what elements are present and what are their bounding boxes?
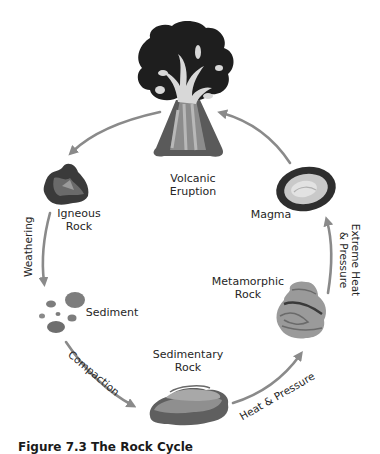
label-line: Magma — [246, 208, 296, 221]
label-line: Rock — [208, 288, 288, 301]
label-line: Sedimentary — [148, 348, 228, 361]
label-line: Extreme Heat — [350, 215, 362, 305]
sedimentary-rock-icon — [150, 386, 229, 425]
label-line: Rock — [54, 220, 104, 233]
stage-label-sediment: Sediment — [82, 306, 142, 319]
label-line: Volcanic — [158, 172, 228, 185]
figure-caption: Figure 7.3 The Rock Cycle — [18, 440, 193, 454]
label-line: Rock — [148, 361, 228, 374]
sediment-icon — [39, 292, 85, 333]
label-line: Metamorphic — [208, 275, 288, 288]
label-line: Igneous — [54, 207, 104, 220]
label-line: Eruption — [158, 185, 228, 198]
arrow-volcano-to-igneous — [72, 112, 160, 152]
label-line: Sediment — [82, 306, 142, 319]
label-line: & Pressure — [338, 215, 350, 305]
stage-label-volcanic-eruption: Volcanic Eruption — [158, 172, 228, 198]
stage-label-igneous-rock: Igneous Rock — [54, 207, 104, 233]
arrow-igneous-to-sediment — [43, 213, 50, 282]
arrow-metamorphic-to-magma — [327, 221, 331, 293]
process-label-weathering: Weathering — [22, 217, 34, 277]
arrow-magma-to-volcano — [222, 113, 290, 163]
stage-label-sedimentary-rock: Sedimentary Rock — [148, 348, 228, 374]
stage-label-metamorphic-rock: Metamorphic Rock — [208, 275, 288, 301]
volcano-icon — [138, 21, 234, 157]
stage-label-magma: Magma — [246, 208, 296, 221]
igneous-rock-icon — [44, 164, 89, 205]
process-label-extreme-heat-pressure: Extreme Heat & Pressure — [338, 215, 362, 305]
